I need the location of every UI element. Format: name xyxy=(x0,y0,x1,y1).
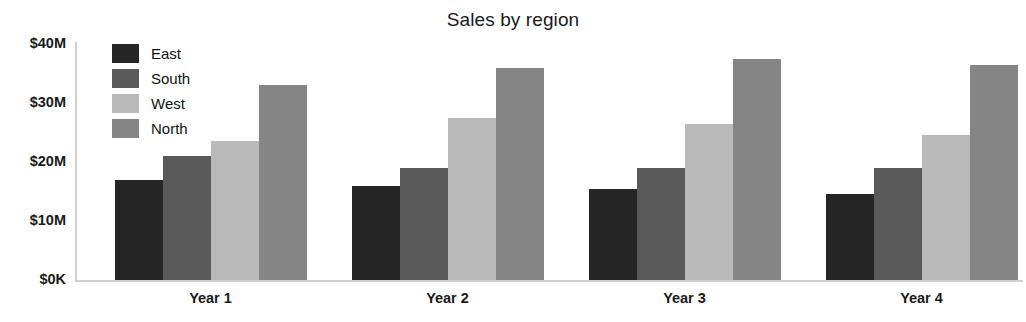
x-axis-tick-label: Year 3 xyxy=(549,290,821,306)
legend-label: East xyxy=(151,45,181,62)
bar-south-year-1[interactable] xyxy=(163,156,211,280)
y-axis-tick-label: $10M xyxy=(0,212,66,228)
x-axis-line xyxy=(75,280,1023,282)
legend-item-south[interactable]: South xyxy=(112,67,190,89)
y-axis-tick-label: $30M xyxy=(0,94,66,110)
bar-south-year-3[interactable] xyxy=(637,168,685,280)
legend-label: South xyxy=(151,70,190,87)
y-axis-tick-label: $40M xyxy=(0,35,66,51)
legend-item-east[interactable]: East xyxy=(112,42,190,64)
bar-north-year-2[interactable] xyxy=(496,68,544,280)
y-axis-tick-label: $0K xyxy=(0,271,66,287)
legend-label: West xyxy=(151,95,185,112)
chart-legend: EastSouthWestNorth xyxy=(112,42,190,139)
bar-east-year-3[interactable] xyxy=(589,189,637,280)
legend-item-west[interactable]: West xyxy=(112,92,190,114)
bar-south-year-4[interactable] xyxy=(874,168,922,280)
legend-label: North xyxy=(151,120,188,137)
legend-swatch-icon xyxy=(112,119,139,138)
x-axis-tick-label: Year 2 xyxy=(312,290,584,306)
legend-swatch-icon xyxy=(112,44,139,63)
bar-group xyxy=(352,44,544,280)
plot-area xyxy=(75,44,1023,280)
x-axis-tick-label: Year 1 xyxy=(75,290,347,306)
bar-west-year-3[interactable] xyxy=(685,124,733,280)
legend-swatch-icon xyxy=(112,69,139,88)
bar-east-year-1[interactable] xyxy=(115,180,163,280)
bar-north-year-4[interactable] xyxy=(970,65,1018,280)
chart-title: Sales by region xyxy=(0,9,1026,31)
bar-south-year-2[interactable] xyxy=(400,168,448,280)
bar-group xyxy=(589,44,781,280)
y-axis-tick-label: $20M xyxy=(0,153,66,169)
bar-chart: Sales by region $0K$10M$20M$30M$40M Year… xyxy=(0,0,1026,322)
legend-item-north[interactable]: North xyxy=(112,117,190,139)
bar-west-year-4[interactable] xyxy=(922,135,970,280)
bar-north-year-1[interactable] xyxy=(259,85,307,280)
bar-west-year-2[interactable] xyxy=(448,118,496,280)
bar-north-year-3[interactable] xyxy=(733,59,781,280)
bar-west-year-1[interactable] xyxy=(211,141,259,280)
bar-east-year-2[interactable] xyxy=(352,186,400,280)
bar-group xyxy=(826,44,1018,280)
bar-east-year-4[interactable] xyxy=(826,194,874,280)
legend-swatch-icon xyxy=(112,94,139,113)
x-axis-tick-label: Year 4 xyxy=(786,290,1026,306)
